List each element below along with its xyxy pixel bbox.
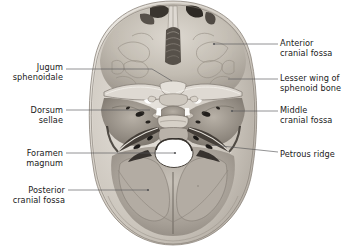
anatomical-figure: Jugum sphenoidale Dorsum sellae Foramen … bbox=[0, 0, 347, 247]
label-petrous-ridge: Petrous ridge bbox=[280, 149, 346, 159]
label-dorsum-sellae: Dorsum sellae bbox=[3, 105, 63, 125]
foramen-magnum bbox=[155, 139, 193, 168]
label-anterior-cranial-fossa: Anterior cranial fossa bbox=[280, 38, 346, 58]
label-foramen-magnum: Foramen magnum bbox=[3, 148, 63, 168]
label-lesser-wing-of-sphenoid-bone: Lesser wing of sphenoid bone bbox=[280, 73, 346, 93]
label-jugum-sphenoidale: Jugum sphenoidale bbox=[3, 62, 63, 82]
label-posterior-cranial-fossa: Posterior cranial fossa bbox=[1, 185, 65, 205]
label-middle-cranial-fossa: Middle cranial fossa bbox=[280, 105, 346, 125]
